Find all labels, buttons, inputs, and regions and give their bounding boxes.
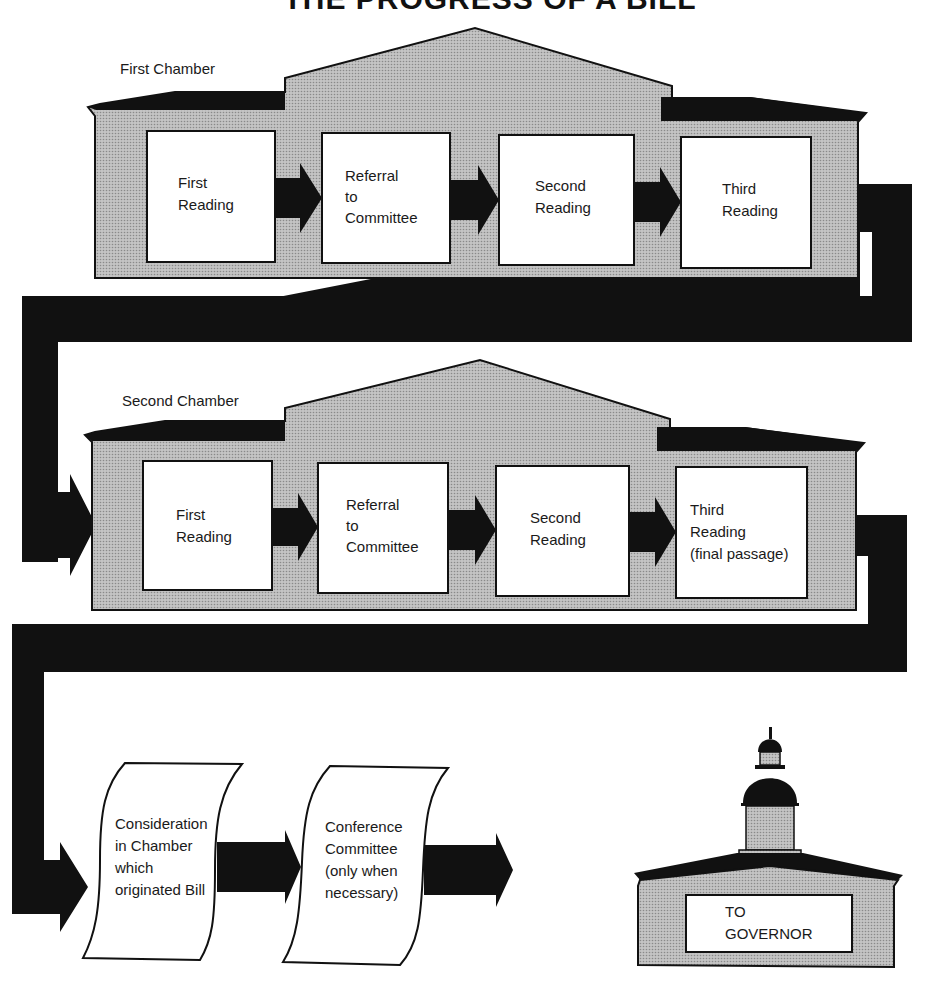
governor-box	[686, 895, 852, 952]
final-steps: Consideration in Chamber which originate…	[83, 763, 513, 965]
first-chamber-building: First Chamber First Reading Referral to …	[88, 28, 866, 278]
capitol-building-icon: TO GOVERNOR	[634, 727, 903, 967]
second-chamber-building: Second Chamber First Reading Referral to…	[85, 360, 864, 610]
first-chamber-label: First Chamber	[120, 60, 215, 77]
bill-progress-diagram: THE PROGRESS OF A BILL First Chamber Fir…	[0, 0, 931, 986]
second-chamber-label: Second Chamber	[122, 392, 239, 409]
step-box	[322, 133, 450, 263]
step-box	[143, 461, 272, 590]
step-box	[318, 463, 448, 593]
arrow-right-icon	[424, 833, 513, 907]
diagram-title: THE PROGRESS OF A BILL	[283, 0, 696, 15]
arrow-right-icon	[217, 830, 301, 904]
